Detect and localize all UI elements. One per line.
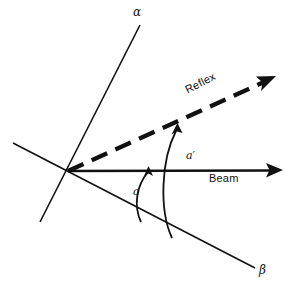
diagram-vector-layer: [0, 0, 291, 291]
beam-label: Beam: [209, 173, 239, 184]
beta-axis-label: β: [259, 264, 266, 276]
alpha-axis-line: [40, 25, 140, 222]
angle-a-label: a: [133, 186, 140, 197]
beam-arrow-shaft: [68, 171, 272, 172]
angle-a-prime-label: a′: [186, 150, 195, 161]
alpha-axis-label: α: [133, 6, 141, 18]
beta-axis-line: [13, 143, 255, 268]
diagram-canvas: α β Beam Reflex a a′: [0, 0, 291, 291]
